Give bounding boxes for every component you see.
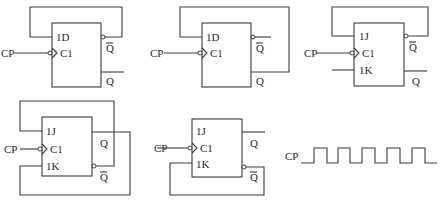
q-label: Q	[106, 75, 114, 87]
pin-1d: 1D	[206, 31, 220, 43]
cp-waveform-label: CP	[285, 150, 298, 162]
circuit-d-jk-flip-flop: CP 1J C1 1K Q Q	[4, 101, 130, 195]
clock-inversion-bubble	[198, 51, 202, 55]
cp-label: CP	[150, 47, 163, 59]
qbar-label: Q	[106, 42, 114, 54]
pin-c1: C1	[60, 47, 73, 59]
pin-1j: 1J	[46, 125, 57, 137]
qbar-inversion-bubble	[101, 35, 105, 39]
clock-inversion-bubble	[48, 51, 52, 55]
qbar-label: Q	[250, 171, 258, 183]
qbar-label: Q	[409, 41, 417, 53]
clock-pulse-train	[301, 148, 437, 163]
qbar-inversion-bubble	[251, 35, 255, 39]
cp-label: CP	[1, 47, 14, 59]
qbar-inversion-bubble	[242, 165, 246, 169]
cp-label: CP	[154, 142, 167, 154]
circuit-e-jk-flip-flop: CP 1J C1 1K Q Q	[154, 119, 265, 195]
clock-inversion-bubble	[38, 147, 42, 151]
q-label: Q	[412, 75, 420, 87]
pin-1j: 1J	[196, 125, 207, 137]
pin-c1: C1	[210, 47, 223, 59]
pin-1d: 1D	[56, 31, 70, 43]
pin-1k: 1K	[359, 64, 373, 76]
clock-inversion-bubble	[350, 51, 354, 55]
pin-c1: C1	[200, 142, 213, 154]
pin-1k: 1K	[46, 160, 60, 172]
qbar-label: Q	[100, 171, 108, 183]
pin-c1: C1	[362, 47, 375, 59]
q-label: Q	[100, 137, 108, 149]
cp-label: CP	[304, 47, 317, 59]
qbar-inversion-bubble	[92, 164, 96, 168]
circuit-a-d-flip-flop: CP 1D C1 Q Q	[1, 7, 124, 87]
flip-flop-diagram: CP 1D C1 Q Q CP 1D C1 Q Q CP 1J C1 1K Q	[0, 0, 440, 206]
qbar-inversion-bubble	[404, 34, 408, 38]
cp-waveform: CP	[285, 148, 437, 163]
pin-c1: C1	[50, 143, 63, 155]
q-label: Q	[256, 75, 264, 87]
circuit-b-d-flip-flop: CP 1D C1 Q Q	[150, 7, 289, 87]
pin-1k: 1K	[196, 158, 210, 170]
circuit-c-jk-flip-flop: CP 1J C1 1K Q Q	[304, 7, 428, 87]
qbar-label: Q	[256, 42, 264, 54]
cp-label: CP	[4, 143, 17, 155]
q-label: Q	[250, 137, 258, 149]
clock-inversion-bubble	[188, 146, 192, 150]
pin-1j: 1J	[359, 30, 370, 42]
